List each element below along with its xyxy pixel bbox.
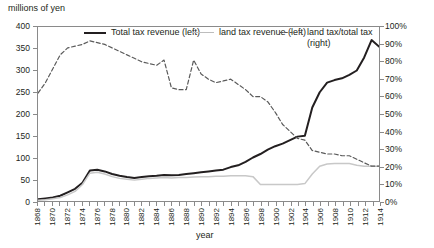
y-tick-right-20%: 20% xyxy=(385,162,419,172)
x-tickmark xyxy=(171,202,172,206)
x-tickmark xyxy=(82,202,83,206)
x-tickmark xyxy=(380,202,381,206)
x-tick-1876: 1876 xyxy=(93,208,102,226)
y-tick-left-0: 0 xyxy=(0,197,30,207)
x-tick-1868: 1868 xyxy=(33,208,42,226)
x-tickmark xyxy=(67,202,68,206)
x-tick-1914: 1914 xyxy=(376,208,385,226)
y-tickmark-right xyxy=(380,149,384,150)
y-tick-right-0%: 0% xyxy=(385,197,419,207)
x-tick-1880: 1880 xyxy=(122,208,131,226)
y-tick-right-40%: 40% xyxy=(385,127,419,137)
x-tickmark xyxy=(328,202,329,206)
x-tickmark xyxy=(164,202,165,206)
legend: Total tax revenue (left) land tax revenu… xyxy=(84,27,376,61)
y-tickmark-left xyxy=(33,114,37,115)
x-tickmark xyxy=(209,202,210,206)
x-tickmark xyxy=(268,202,269,206)
x-tickmark xyxy=(194,202,195,206)
x-tickmark xyxy=(141,202,142,206)
x-tickmark xyxy=(261,202,262,206)
x-tick-1900: 1900 xyxy=(272,208,281,226)
x-tickmark xyxy=(283,202,284,206)
x-tickmark xyxy=(253,202,254,206)
x-tickmark xyxy=(246,202,247,206)
x-tickmark xyxy=(119,202,120,206)
x-tick-1906: 1906 xyxy=(316,208,325,226)
x-tickmark xyxy=(313,202,314,206)
y-axis-title-left: millions of yen xyxy=(8,3,65,13)
x-tick-1886: 1886 xyxy=(167,208,176,226)
x-tickmark xyxy=(365,202,366,206)
y-tickmark-right xyxy=(380,44,384,45)
x-axis-title: year xyxy=(196,230,214,240)
x-tickmark xyxy=(358,202,359,206)
x-tickmark xyxy=(44,202,45,206)
x-tickmark xyxy=(298,202,299,206)
legend-swatch-solid-icon xyxy=(84,32,106,34)
x-tick-1888: 1888 xyxy=(182,208,191,226)
x-tick-1908: 1908 xyxy=(331,208,340,226)
y-tickmark-left xyxy=(33,26,37,27)
y-tickmark-left xyxy=(33,158,37,159)
x-tickmark xyxy=(291,202,292,206)
legend-label-total-tax: Total tax revenue (left) xyxy=(111,27,200,38)
y-tick-left-300: 300 xyxy=(0,65,30,75)
y-tick-right-100%: 100% xyxy=(385,21,419,31)
y-tickmark-left xyxy=(33,180,37,181)
x-tickmark xyxy=(37,202,38,206)
x-tick-1874: 1874 xyxy=(78,208,87,226)
y-tickmark-left xyxy=(33,48,37,49)
y-tickmark-right xyxy=(380,114,384,115)
x-tickmark xyxy=(126,202,127,206)
legend-label-ratio: land tax/total tax (right) xyxy=(307,27,376,49)
legend-item-total-tax: Total tax revenue (left) xyxy=(84,27,200,38)
x-tickmark xyxy=(305,202,306,206)
x-tick-1910: 1910 xyxy=(346,208,355,226)
y-tick-right-80%: 80% xyxy=(385,56,419,66)
x-tickmark xyxy=(74,202,75,206)
y-tickmark-right xyxy=(380,61,384,62)
x-tickmark xyxy=(52,202,53,206)
x-tick-1904: 1904 xyxy=(301,208,310,226)
y-tick-right-90%: 90% xyxy=(385,39,419,49)
y-tickmark-left xyxy=(33,70,37,71)
x-tick-1912: 1912 xyxy=(361,208,370,226)
y-tick-right-10%: 10% xyxy=(385,179,419,189)
y-tick-left-150: 150 xyxy=(0,131,30,141)
y-tickmark-left xyxy=(33,136,37,137)
x-tickmark xyxy=(335,202,336,206)
y-tickmark-right xyxy=(380,96,384,97)
x-tickmark xyxy=(201,202,202,206)
x-tickmark xyxy=(276,202,277,206)
x-tickmark xyxy=(186,202,187,206)
legend-swatch-dashed-icon xyxy=(280,32,302,33)
x-tick-1896: 1896 xyxy=(242,208,251,226)
legend-swatch-gray-icon xyxy=(192,32,214,33)
x-tick-1892: 1892 xyxy=(212,208,221,226)
y-tickmark-left xyxy=(33,92,37,93)
x-tickmark xyxy=(97,202,98,206)
x-tick-1884: 1884 xyxy=(152,208,161,226)
y-tick-left-50: 50 xyxy=(0,175,30,185)
y-tickmark-right xyxy=(380,184,384,185)
x-tickmark xyxy=(350,202,351,206)
x-tickmark xyxy=(223,202,224,206)
chart-container: millions of yen Total tax revenue (left)… xyxy=(0,0,434,248)
x-tick-1890: 1890 xyxy=(197,208,206,226)
x-tick-1902: 1902 xyxy=(287,208,296,226)
x-tick-1878: 1878 xyxy=(108,208,117,226)
x-tickmark xyxy=(59,202,60,206)
x-tickmark xyxy=(238,202,239,206)
y-tick-left-250: 250 xyxy=(0,87,30,97)
y-tickmark-right xyxy=(380,132,384,133)
y-tick-right-60%: 60% xyxy=(385,91,419,101)
x-tickmark xyxy=(179,202,180,206)
y-tick-left-100: 100 xyxy=(0,153,30,163)
x-tick-1872: 1872 xyxy=(63,208,72,226)
x-tickmark xyxy=(134,202,135,206)
x-tickmark xyxy=(149,202,150,206)
x-tick-1898: 1898 xyxy=(257,208,266,226)
x-tickmark xyxy=(343,202,344,206)
y-tickmark-right xyxy=(380,79,384,80)
